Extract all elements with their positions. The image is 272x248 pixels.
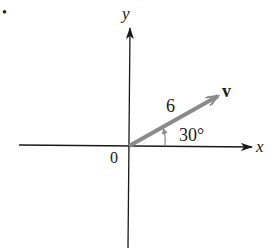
origin-label: 0 bbox=[110, 149, 118, 166]
x-axis-label: x bbox=[255, 137, 264, 156]
y-axis bbox=[128, 28, 130, 248]
vector-name-label: v bbox=[222, 81, 231, 101]
angle-label: 30° bbox=[179, 125, 204, 145]
angle-arc bbox=[164, 131, 165, 145]
y-axis-label: y bbox=[120, 4, 130, 23]
magnitude-label: 6 bbox=[166, 96, 175, 116]
bullet-marker: • bbox=[2, 5, 7, 20]
vector-diagram: • y x 0 6 30° v bbox=[0, 0, 272, 248]
x-axis bbox=[19, 145, 252, 147]
